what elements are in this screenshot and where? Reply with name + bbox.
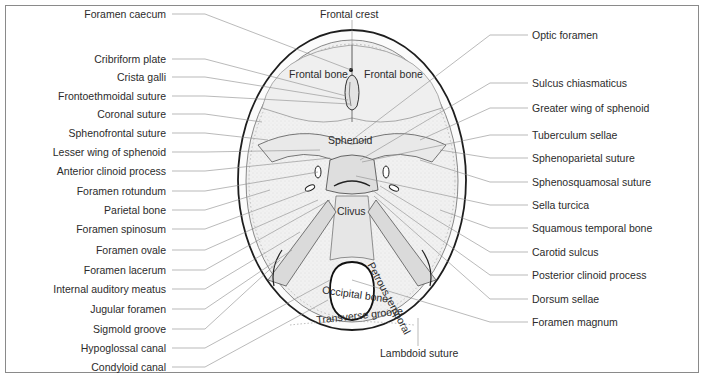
label-foramen-ovale: Foramen ovale [96,244,166,256]
label-squamous-temporal-bone: Squamous temporal bone [532,222,652,234]
label-greater-wing-of-sphenoid: Greater wing of sphenoid [532,102,649,114]
label-carotid-sulcus: Carotid sulcus [532,246,599,258]
label-foramen-magnum: Foramen magnum [532,316,618,328]
label-sphenoid: Sphenoid [328,134,372,146]
label-hypoglossal-canal: Hypoglossal canal [81,342,166,354]
label-condyloid-canal: Condyloid canal [91,361,166,373]
label-cribriform-plate: Cribriform plate [94,53,166,65]
label-frontal-crest: Frontal crest [320,8,378,20]
label-frontal-bone-left: Frontal bone [289,68,348,80]
label-parietal-bone: Parietal bone [104,204,166,216]
label-sella-turcica: Sella turcica [532,199,589,211]
label-clivus: Clivus [337,205,366,217]
label-foramen-lacerum: Foramen lacerum [84,264,166,276]
label-sphenoparietal-suture: Sphenoparietal suture [532,152,635,164]
label-foramen-spinosum: Foramen spinosum [76,223,166,235]
label-jugular-foramen: Jugular foramen [90,303,166,315]
label-lesser-wing-of-sphenoid: Lesser wing of sphenoid [53,146,166,158]
label-sigmoid-groove: Sigmold groove [93,323,166,335]
label-sphenofrontal-suture: Sphenofrontal suture [69,127,166,139]
label-sulcus-chiasmaticus: Sulcus chiasmaticus [532,77,627,89]
label-optic-foramen: Optic foramen [532,29,598,41]
label-frontoethmoidal-suture: Frontoethmoidal suture [58,90,166,102]
label-coronal-suture: Coronal suture [97,108,166,120]
label-lambdoid-suture: Lambdoid suture [380,347,458,359]
label-foramen-rotundum: Foramen rotundum [77,185,166,197]
label-frontal-bone-right: Frontal bone [364,68,423,80]
label-dorsum-sellae: Dorsum sellae [532,293,599,305]
label-internal-auditory-meatus: Internal auditory meatus [53,283,166,295]
label-crista-galli: Crista galli [117,71,166,83]
label-posterior-clinoid-process: Posterior clinoid process [532,269,646,281]
label-sphenosquamosal-suture: Sphenosquamosal suture [532,176,651,188]
label-anterior-clinoid-process: Anterior clinoid process [57,165,166,177]
label-tuberculum-sellae: Tuberculum sellae [532,129,617,141]
label-foramen-caecum: Foramen caecum [84,8,166,20]
